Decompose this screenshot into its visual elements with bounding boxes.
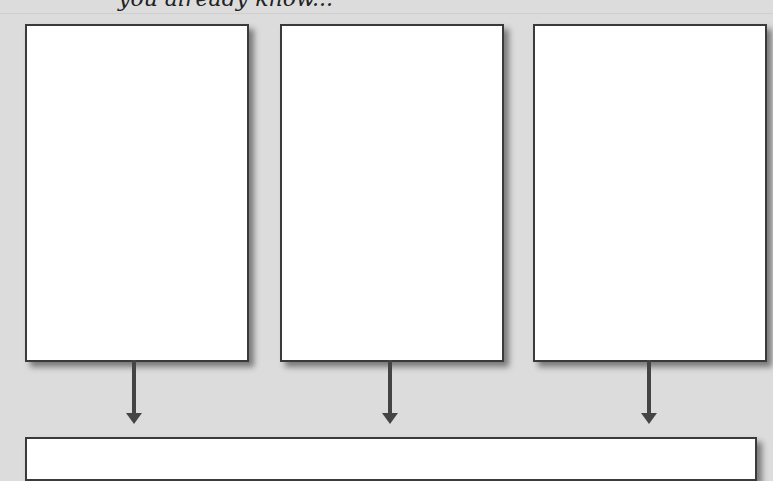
down-arrow-icon — [124, 360, 144, 430]
down-arrow-icon — [380, 360, 400, 430]
result-box[interactable] — [25, 437, 757, 481]
input-box-3[interactable] — [533, 24, 767, 362]
input-box-1[interactable] — [25, 24, 249, 362]
down-arrow-icon — [639, 360, 659, 430]
caption-text: you already know... — [118, 0, 333, 11]
header-divider — [0, 13, 773, 14]
input-box-2[interactable] — [280, 24, 504, 362]
